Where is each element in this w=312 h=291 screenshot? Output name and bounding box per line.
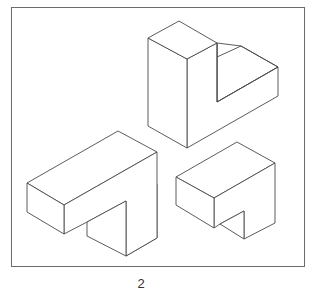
short-t-block	[176, 142, 275, 239]
upright-l-block	[148, 21, 278, 148]
isometric-drawing	[0, 0, 312, 291]
long-t-block	[27, 131, 157, 256]
figure-caption: 2	[0, 276, 282, 291]
